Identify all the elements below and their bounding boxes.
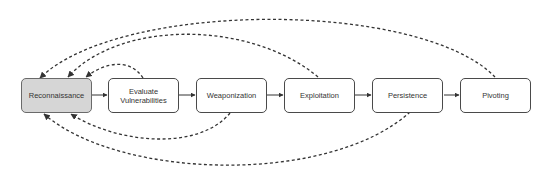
feedback-weap-to-recon — [71, 113, 230, 139]
node-evaluate-vulnerabilities: Evaluate Vulnerabilities — [108, 78, 179, 113]
feedback-pers-to-recon — [44, 112, 410, 165]
node-pivoting: Pivoting — [460, 78, 531, 113]
feedback-expl-to-recon — [68, 34, 318, 77]
node-exploitation: Exploitation — [284, 78, 355, 113]
node-weaponization: Weaponization — [196, 78, 267, 113]
node-label: Weaponization — [207, 91, 256, 100]
node-label: Reconnaissance — [29, 91, 84, 100]
feedback-eval-to-recon — [86, 64, 143, 78]
node-reconnaissance: Reconnaissance — [21, 78, 92, 113]
node-label: Evaluate Vulnerabilities — [120, 87, 166, 105]
node-label: Pivoting — [482, 91, 509, 100]
node-label: Exploitation — [300, 91, 339, 100]
node-persistence: Persistence — [372, 78, 443, 113]
node-label: Persistence — [388, 91, 427, 100]
